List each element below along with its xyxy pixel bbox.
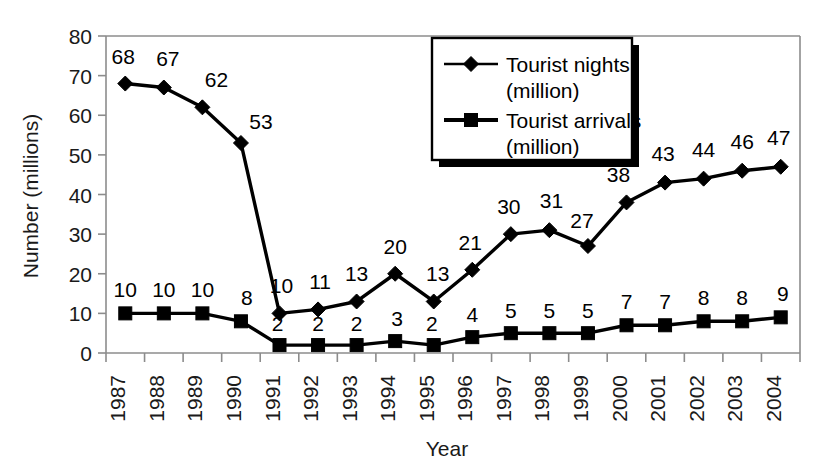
data-label: 7 [659, 290, 671, 313]
data-point [119, 307, 132, 320]
chart-legend: Tourist nights(million)Tourist arrivals(… [432, 38, 641, 167]
x-tick-label: 2003 [723, 375, 746, 422]
legend-label-line1: Tourist arrivals [506, 109, 641, 132]
data-label: 10 [114, 278, 137, 301]
data-label: 5 [544, 299, 556, 322]
data-label: 30 [497, 195, 520, 218]
data-point [504, 327, 517, 340]
y-tick-label: 30 [69, 223, 92, 246]
data-label: 8 [736, 286, 748, 309]
x-tick-label: 1994 [376, 375, 399, 422]
x-tick-label: 1996 [453, 375, 476, 422]
legend-marker-square [465, 114, 478, 127]
x-axis-title: Year [426, 437, 468, 460]
x-tick-label: 1988 [145, 375, 168, 422]
data-label: 4 [466, 303, 478, 326]
data-label: 10 [152, 278, 175, 301]
data-label: 68 [112, 45, 135, 68]
data-label: 53 [249, 110, 272, 133]
data-label: 67 [156, 47, 179, 70]
data-label: 46 [730, 130, 753, 153]
data-label: 5 [582, 299, 594, 322]
data-point [312, 339, 325, 352]
data-label: 2 [312, 312, 324, 335]
data-label: 9 [777, 282, 789, 305]
y-tick-label: 80 [69, 25, 92, 48]
data-point [196, 307, 209, 320]
x-tick-label: 1995 [415, 375, 438, 422]
y-tick-label: 20 [69, 263, 92, 286]
data-point [157, 307, 170, 320]
x-tick-label: 1998 [530, 375, 553, 422]
data-label: 62 [205, 68, 228, 91]
data-label: 20 [383, 235, 406, 258]
x-tick-label: 2004 [762, 375, 785, 422]
data-label: 2 [272, 312, 284, 335]
data-label: 21 [459, 231, 482, 254]
x-tick-label: 1993 [338, 375, 361, 422]
data-label: 2 [351, 312, 363, 335]
data-label: 44 [692, 138, 716, 161]
data-label: 7 [621, 290, 633, 313]
x-tick-label: 1987 [106, 375, 129, 422]
data-point [774, 311, 787, 324]
legend-label-line2: (million) [506, 79, 580, 102]
y-tick-label: 0 [80, 342, 92, 365]
x-tick-label: 2002 [685, 375, 708, 422]
x-tick-label: 2001 [646, 375, 669, 422]
y-tick-label: 10 [69, 302, 92, 325]
data-point [427, 339, 440, 352]
data-label: 3 [391, 307, 403, 330]
x-tick-label: 1997 [492, 375, 515, 422]
data-point [659, 319, 672, 332]
data-label: 11 [309, 270, 331, 293]
data-point [620, 319, 633, 332]
data-point [736, 315, 749, 328]
data-label: 2 [426, 312, 438, 335]
data-label: 31 [540, 189, 563, 212]
x-tick-label: 1989 [183, 375, 206, 422]
data-label: 43 [651, 142, 674, 165]
data-label: 27 [570, 209, 593, 232]
legend-label-line1: Tourist nights [506, 53, 630, 76]
data-point [389, 335, 402, 348]
x-tick-label: 1990 [222, 375, 245, 422]
data-label: 13 [426, 262, 449, 285]
y-tick-label: 70 [69, 65, 92, 88]
x-tick-label: 1991 [261, 375, 284, 422]
data-label: 10 [270, 274, 293, 297]
data-point [543, 327, 556, 340]
line-chart: 01020304050607080 1987198819891990199119… [0, 0, 836, 471]
data-label: 47 [767, 126, 790, 149]
x-tick-label: 1992 [299, 375, 322, 422]
data-label: 5 [505, 299, 517, 322]
data-point [581, 327, 594, 340]
x-tick-label: 1999 [569, 375, 592, 422]
data-label: 8 [241, 286, 253, 309]
legend-label-line2: (million) [506, 135, 580, 158]
data-label: 10 [191, 278, 214, 301]
data-point [697, 315, 710, 328]
data-label: 8 [698, 286, 710, 309]
data-point [350, 339, 363, 352]
y-tick-label: 40 [69, 184, 92, 207]
y-axis-title: Number (millions) [19, 114, 42, 279]
y-tick-label: 50 [69, 144, 92, 167]
data-point [273, 339, 286, 352]
data-label: 13 [345, 262, 368, 285]
y-axis-tick-labels: 01020304050607080 [69, 25, 92, 365]
y-tick-label: 60 [69, 104, 92, 127]
data-point [466, 331, 479, 344]
data-point [234, 315, 247, 328]
chart-container: 01020304050607080 1987198819891990199119… [0, 0, 836, 471]
x-tick-label: 2000 [608, 375, 631, 422]
